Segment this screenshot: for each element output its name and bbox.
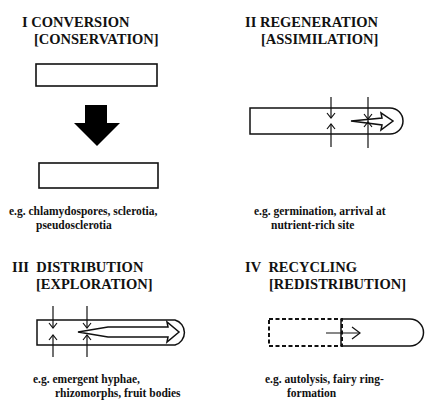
panel-1-converted-box	[39, 163, 158, 188]
diagram-canvas	[0, 0, 433, 415]
panel-2-growth-arrow-icon	[351, 113, 393, 130]
panel-2-uptake-arrow-left	[327, 97, 335, 147]
panel-3-hypha-outline	[37, 320, 184, 345]
panel-1-down-arrow-icon	[74, 105, 120, 146]
panel-3-translocation-arrow-icon	[78, 322, 179, 342]
panel-1-initial-box	[36, 64, 157, 86]
panel-3-uptake-arrow-left	[49, 306, 57, 357]
